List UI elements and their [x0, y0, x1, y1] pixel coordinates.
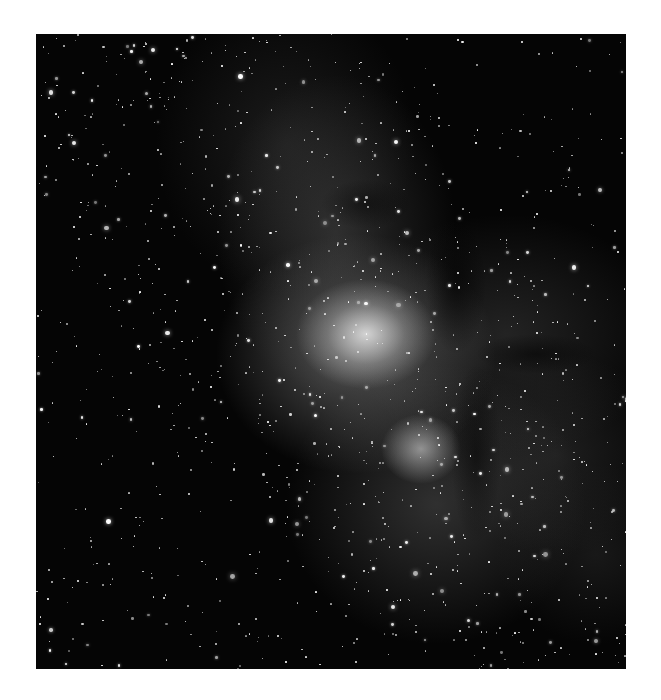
star — [356, 638, 358, 640]
star — [234, 463, 235, 464]
star — [320, 369, 321, 370]
star — [523, 662, 524, 663]
star — [161, 518, 163, 520]
star — [541, 445, 542, 446]
star — [366, 463, 367, 464]
star — [283, 66, 284, 67]
star — [233, 468, 235, 470]
star — [581, 620, 583, 622]
star — [176, 300, 177, 301]
star — [338, 225, 339, 226]
star — [244, 52, 245, 53]
star — [130, 372, 132, 374]
star — [518, 593, 521, 596]
star — [523, 114, 524, 115]
star — [239, 665, 241, 667]
star — [571, 155, 572, 156]
star — [476, 246, 477, 247]
star — [511, 326, 512, 327]
star — [338, 517, 339, 518]
star — [311, 151, 312, 152]
star — [370, 560, 371, 561]
star — [512, 495, 513, 496]
star — [105, 237, 106, 238]
star — [464, 538, 466, 540]
star — [238, 384, 239, 385]
star — [66, 323, 68, 325]
star — [97, 371, 98, 372]
star — [327, 359, 329, 361]
star — [535, 498, 536, 499]
star — [506, 251, 509, 254]
star — [47, 598, 48, 599]
star — [471, 270, 473, 272]
star — [614, 403, 616, 405]
star — [288, 298, 289, 299]
star — [309, 393, 312, 396]
star — [262, 658, 263, 659]
star — [139, 60, 143, 64]
star — [310, 66, 312, 68]
star — [404, 400, 406, 402]
star — [573, 452, 575, 454]
star — [159, 97, 160, 98]
star — [526, 191, 529, 194]
star — [269, 496, 271, 498]
star — [562, 429, 564, 431]
star — [176, 48, 179, 51]
star — [222, 293, 224, 295]
star — [367, 206, 369, 208]
star — [335, 62, 336, 63]
star — [40, 616, 41, 617]
star — [328, 557, 329, 558]
star — [160, 153, 162, 155]
star — [624, 288, 626, 290]
star — [419, 104, 420, 105]
star — [306, 313, 307, 314]
star — [437, 93, 438, 94]
star — [607, 442, 608, 443]
star — [477, 129, 479, 131]
star — [168, 97, 169, 98]
star — [578, 138, 579, 139]
star — [143, 521, 144, 522]
star — [402, 91, 403, 92]
star — [567, 500, 569, 502]
star — [543, 525, 546, 528]
star — [355, 661, 357, 663]
star — [221, 278, 222, 279]
milky-way-photo — [36, 34, 626, 669]
star — [174, 235, 175, 236]
star — [465, 639, 467, 641]
star — [305, 656, 306, 657]
star — [421, 241, 422, 242]
star — [445, 387, 446, 388]
star — [299, 260, 300, 261]
star — [366, 339, 367, 340]
star — [505, 432, 506, 433]
star — [441, 259, 442, 260]
star — [538, 53, 540, 55]
star — [101, 665, 103, 667]
star — [371, 258, 375, 262]
star — [150, 105, 153, 108]
star — [391, 605, 395, 609]
star — [620, 42, 621, 43]
star — [357, 301, 360, 304]
star — [462, 208, 463, 209]
star — [448, 125, 449, 126]
star — [246, 112, 248, 114]
star — [267, 421, 269, 423]
star — [330, 603, 332, 605]
star — [490, 664, 493, 667]
star — [490, 335, 491, 336]
star — [307, 161, 308, 162]
star — [380, 613, 381, 614]
star — [383, 538, 384, 539]
star — [152, 462, 154, 464]
star — [164, 294, 165, 295]
star — [560, 647, 562, 649]
star — [610, 464, 611, 465]
star — [121, 168, 122, 169]
star — [104, 226, 109, 231]
